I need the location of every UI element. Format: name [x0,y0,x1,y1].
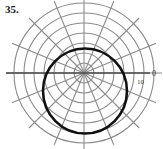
radial-tick-label: 10 [137,78,145,86]
plotted-curve [43,49,127,134]
polar-plot-svg: 10 0 [0,0,163,149]
polar-figure: 35. [0,0,163,149]
polar-axis-zero-label: 0 [152,69,156,78]
polar-grid-spokes [6,0,162,149]
